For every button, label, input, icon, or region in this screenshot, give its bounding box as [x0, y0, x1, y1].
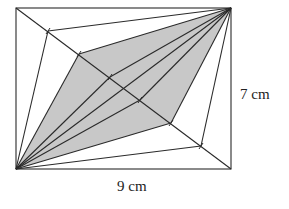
width-label: 9 cm — [117, 178, 147, 195]
height-label: 7 cm — [240, 86, 270, 103]
